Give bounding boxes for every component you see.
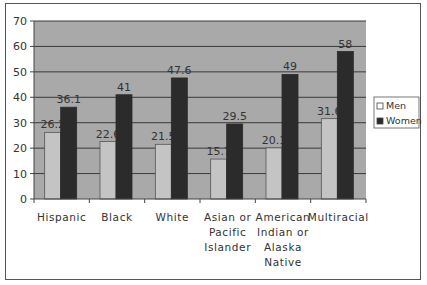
bar-men <box>266 148 282 199</box>
legend-label: Women <box>386 115 422 126</box>
svg-text:Multiracial: Multiracial <box>308 211 369 223</box>
svg-text:American: American <box>256 211 311 223</box>
legend-label: Men <box>386 100 406 111</box>
svg-text:White: White <box>156 211 190 223</box>
svg-text:Native: Native <box>264 256 302 268</box>
svg-text:60: 60 <box>13 40 27 53</box>
bar-men <box>155 144 171 199</box>
legend-swatch-women <box>377 118 383 124</box>
data-label: 29.5 <box>222 110 247 123</box>
bar-women <box>116 95 132 199</box>
data-label: 58 <box>338 38 352 51</box>
bar-women <box>337 52 353 199</box>
bar-women <box>171 78 187 199</box>
bar-women <box>227 124 243 199</box>
svg-text:10: 10 <box>13 168 27 181</box>
legend-swatch-men <box>377 103 383 109</box>
bar-women <box>282 74 298 199</box>
bar-men <box>211 159 227 199</box>
bar-men <box>45 132 61 199</box>
svg-text:70: 70 <box>13 15 27 28</box>
bar-men <box>321 119 337 199</box>
bar-men <box>100 142 116 199</box>
svg-text:0: 0 <box>20 193 27 206</box>
svg-text:30: 30 <box>13 117 27 130</box>
y-tick-labels: 010203040506070 <box>13 15 34 206</box>
data-label: 36.1 <box>56 93 81 106</box>
svg-text:40: 40 <box>13 91 27 104</box>
svg-text:Indian or: Indian or <box>257 226 309 238</box>
svg-text:Alaska: Alaska <box>264 241 302 253</box>
bar-chart: 26.236.122.64121.547.615.729.520.14931.6… <box>0 0 427 285</box>
svg-text:Black: Black <box>101 211 133 223</box>
bar-women <box>61 107 77 199</box>
svg-text:Asian or: Asian or <box>204 211 252 223</box>
svg-text:Hispanic: Hispanic <box>37 211 87 223</box>
data-label: 49 <box>283 60 297 73</box>
data-label: 47.6 <box>167 64 192 77</box>
svg-text:Islander: Islander <box>204 241 251 253</box>
svg-text:50: 50 <box>13 66 27 79</box>
legend: MenWomen <box>374 97 422 128</box>
x-tick-labels: HispanicBlackWhiteAsian orPacificIslande… <box>34 199 369 268</box>
svg-text:20: 20 <box>13 142 27 155</box>
svg-text:Pacific: Pacific <box>209 226 247 238</box>
data-label: 41 <box>117 81 131 94</box>
